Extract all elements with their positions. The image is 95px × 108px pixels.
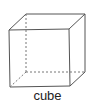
cube-edge-bottom-right-depth bbox=[70, 72, 85, 86]
diagram-label: cube bbox=[0, 89, 95, 103]
cube-edge-top-left-depth bbox=[9, 14, 26, 30]
cube-front-face bbox=[9, 29, 70, 87]
cube-hidden-edge-bottom-left-depth bbox=[10, 72, 26, 87]
cube-edge-top-right-depth bbox=[69, 14, 85, 29]
cube-visible-edges bbox=[9, 14, 85, 87]
